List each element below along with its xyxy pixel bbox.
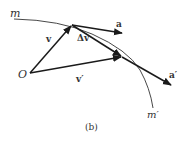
label-v-prime: v′	[76, 75, 84, 84]
label-m: m	[10, 8, 20, 19]
vector-v-prime	[30, 57, 121, 73]
figure-caption: (b)	[85, 123, 98, 132]
label-origin: O	[18, 69, 27, 80]
label-a: a	[116, 20, 122, 29]
label-v: v	[46, 35, 51, 44]
label-delta-v: Δv	[77, 34, 89, 43]
vector-a-prime	[122, 57, 171, 85]
label-m-prime: m′	[147, 110, 159, 120]
label-a-prime: a′	[169, 71, 177, 80]
